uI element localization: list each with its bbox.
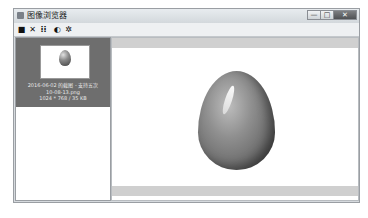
info-icon[interactable]: ◐ xyxy=(53,25,62,34)
toolbar: ■ ✕ ⁞⁞ ◐ ✲ xyxy=(14,23,359,37)
settings-icon[interactable]: ✲ xyxy=(64,25,73,34)
viewer-top-bar xyxy=(112,38,358,48)
title-bar[interactable]: 图像浏览器 — □ ✕ xyxy=(14,9,359,23)
maximize-button[interactable]: □ xyxy=(320,10,334,20)
caption-filename: 2016-06-02 的截图 - 支持五次 xyxy=(18,82,108,89)
egg-highlight xyxy=(221,85,237,116)
thumbnail-list[interactable]: 2016-06-02 的截图 - 支持五次 10-08-13.png 1024 … xyxy=(15,37,111,201)
thumbnail-item-selected[interactable]: 2016-06-02 的截图 - 支持五次 10-08-13.png 1024 … xyxy=(16,38,110,107)
app-window: 图像浏览器 — □ ✕ ■ ✕ ⁞⁞ ◐ ✲ 2016-06-02 的截图 - … xyxy=(13,8,360,203)
window-title: 图像浏览器 xyxy=(27,10,67,22)
grid-icon[interactable]: ⁞⁞ xyxy=(39,25,48,34)
image-viewer[interactable] xyxy=(111,37,359,201)
egg-thumbnail-icon xyxy=(59,50,71,66)
app-icon xyxy=(17,12,24,19)
viewer-bottom-bar xyxy=(112,186,358,196)
thumbnail-caption: 2016-06-02 的截图 - 支持五次 10-08-13.png 1024 … xyxy=(18,82,108,102)
window-controls: — □ ✕ xyxy=(308,10,357,21)
minimize-button[interactable]: — xyxy=(307,10,321,20)
egg-image xyxy=(198,71,275,170)
thumbnail-image xyxy=(40,45,90,79)
save-icon[interactable]: ■ xyxy=(17,25,26,34)
delete-icon[interactable]: ✕ xyxy=(28,25,37,34)
close-button[interactable]: ✕ xyxy=(333,10,357,20)
caption-size: 1024 * 768 / 35 KB xyxy=(18,95,108,102)
